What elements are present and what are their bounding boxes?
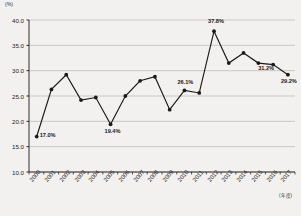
- data-point-label: 31.2%: [258, 65, 274, 71]
- y-axis-tick-label: 20.0: [2, 118, 24, 125]
- data-point-label: 29.2%: [281, 78, 297, 84]
- data-point-label: 19.4%: [105, 128, 121, 134]
- chart-plot-area: [0, 0, 301, 216]
- data-point-label: 26.1%: [177, 79, 193, 85]
- y-axis-tick-label: 30.0: [2, 67, 24, 74]
- x-axis-unit-label: (年度): [279, 192, 292, 198]
- data-point-label: 37.8%: [208, 18, 224, 24]
- y-axis-tick-label: 40.0: [2, 17, 24, 24]
- y-axis-tick-label: 25.0: [2, 93, 24, 100]
- y-axis-tick-label: 10.0: [2, 169, 24, 176]
- data-point-label: 17.0%: [40, 132, 56, 138]
- y-axis-tick-label: 15.0: [2, 143, 24, 150]
- line-chart-figure: (%) 40.035.030.025.020.015.010.0 2000200…: [0, 0, 301, 216]
- y-axis-tick-label: 35.0: [2, 42, 24, 49]
